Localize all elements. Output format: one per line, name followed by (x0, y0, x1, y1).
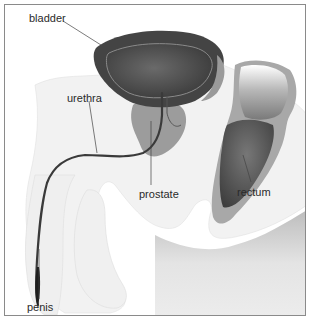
label-prostate: prostate (139, 189, 179, 200)
label-urethra: urethra (67, 93, 102, 104)
label-rectum: rectum (237, 187, 271, 198)
leader-bladder (63, 21, 101, 45)
anatomy-illustration (5, 5, 306, 316)
label-penis: penis (27, 302, 53, 313)
diagram-frame: bladder urethra prostate rectum penis (4, 4, 306, 316)
label-bladder: bladder (29, 13, 66, 24)
rectum-upper-lumen (239, 65, 288, 120)
